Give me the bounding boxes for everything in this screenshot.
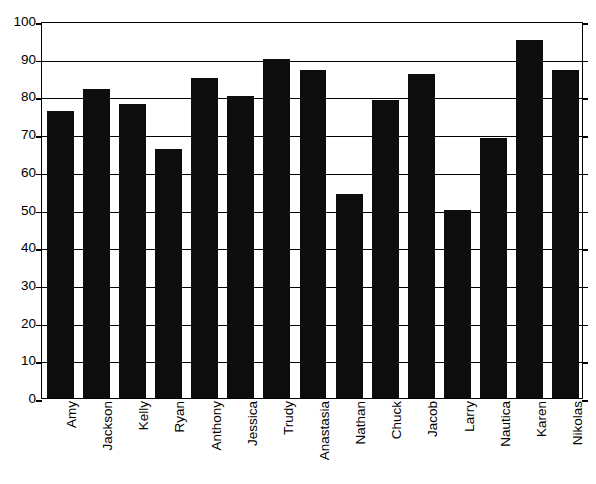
y-axis-tick-label: 40 <box>0 241 36 255</box>
bar <box>155 149 182 398</box>
y-axis-tick-label: 60 <box>0 166 36 180</box>
bar <box>191 78 218 398</box>
y-axis-tick-mark-right <box>582 325 588 327</box>
y-axis-tick-mark-right <box>582 287 588 289</box>
x-axis-tick-label: Larry <box>463 401 477 432</box>
x-axis-tick-label: Nautica <box>499 401 513 447</box>
bar <box>263 59 290 398</box>
x-axis-tick-label-text: Larry <box>463 401 477 432</box>
bar-chart: 0102030405060708090100 AmyJacksonKellyRy… <box>0 0 596 484</box>
bar <box>47 111 74 398</box>
plot-area <box>41 22 583 399</box>
x-axis-tick-label-text: Trudy <box>282 401 296 435</box>
x-axis-tick-label-text: Jackson <box>101 401 115 451</box>
y-axis-tick-labels: 0102030405060708090100 <box>0 0 36 484</box>
x-axis-tick-label-text: Nathan <box>354 401 368 445</box>
x-axis-tick-label: Amy <box>65 401 79 428</box>
bar <box>408 74 435 398</box>
x-axis-tick-label: Anastasia <box>318 401 332 460</box>
y-axis-tick-label: 100 <box>0 15 36 29</box>
x-axis-tick-label: Jacob <box>426 401 440 437</box>
x-axis-tick-label: Nikolas <box>571 401 585 445</box>
x-axis-tick-label: Ryan <box>173 401 187 433</box>
x-axis-tick-label-text: Amy <box>65 401 79 428</box>
y-axis-tick-mark-right <box>582 61 588 63</box>
y-axis-tick-label: 80 <box>0 90 36 104</box>
y-axis-tick-label: 50 <box>0 204 36 218</box>
bars <box>42 23 582 398</box>
bar <box>119 104 146 398</box>
x-axis-tick-label: Trudy <box>282 401 296 435</box>
x-axis-tick-label: Jessica <box>246 401 260 446</box>
x-axis-tick-label: Chuck <box>390 401 404 439</box>
x-axis-tick-label-text: Anthony <box>210 401 224 451</box>
y-axis-tick-label: 30 <box>0 279 36 293</box>
bar <box>227 96 254 398</box>
x-axis-tick-label-text: Chuck <box>390 401 404 439</box>
x-axis-tick-label: Jackson <box>101 401 115 451</box>
x-axis-tick-label-text: Nautica <box>499 401 513 447</box>
y-axis-tick-label: 0 <box>0 392 36 406</box>
y-axis-tick-label: 70 <box>0 128 36 142</box>
x-axis-tick-label-text: Jessica <box>246 401 260 446</box>
x-axis-tick-label-text: Anastasia <box>318 401 332 460</box>
y-axis-tick-mark-right <box>582 362 588 364</box>
bar <box>372 100 399 398</box>
y-axis-tick-label: 10 <box>0 354 36 368</box>
bar <box>83 89 110 398</box>
x-axis-tick-label: Karen <box>535 401 549 437</box>
x-axis-tick-label: Nathan <box>354 401 368 445</box>
x-axis-tick-label: Anthony <box>210 401 224 451</box>
x-axis-tick-label-text: Kelly <box>137 401 151 430</box>
y-axis-tick-mark-right <box>582 174 588 176</box>
y-axis-tick-mark-right <box>582 23 588 25</box>
x-axis-tick-label-text: Ryan <box>173 401 187 433</box>
y-axis-tick-mark-right <box>582 98 588 100</box>
bar <box>480 138 507 398</box>
y-axis-tick-mark-right <box>582 249 588 251</box>
x-axis-tick-label-text: Karen <box>535 401 549 437</box>
y-axis-tick-label: 20 <box>0 317 36 331</box>
y-axis-tick-mark-right <box>582 136 588 138</box>
x-axis-tick-label-text: Nikolas <box>571 401 585 445</box>
bar <box>300 70 327 398</box>
bar <box>516 40 543 398</box>
y-axis-tick-mark-right <box>582 212 588 214</box>
x-axis-tick-label: Kelly <box>137 401 151 430</box>
bar <box>444 210 471 399</box>
y-axis-tick-label: 90 <box>0 53 36 67</box>
x-axis-tick-labels: AmyJacksonKellyRyanAnthonyJessicaTrudyAn… <box>41 401 583 484</box>
bar <box>336 194 363 398</box>
x-axis-tick-label-text: Jacob <box>426 401 440 437</box>
bar <box>552 70 579 398</box>
